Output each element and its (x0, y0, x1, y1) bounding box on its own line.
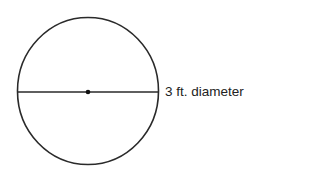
center-point-icon (86, 90, 91, 95)
diameter-label: 3 ft. diameter (165, 84, 244, 100)
